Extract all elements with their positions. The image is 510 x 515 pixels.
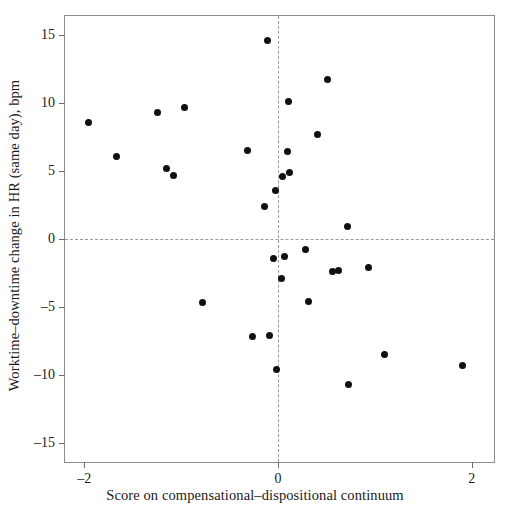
y-axis-tick-label: –10 [34,367,55,383]
data-point [279,173,286,180]
data-point [302,246,309,253]
data-point [285,98,292,105]
data-point [273,366,280,373]
x-axis-tick [84,462,85,468]
data-point [249,333,256,340]
y-axis-tick [59,103,65,104]
data-point [345,381,352,388]
y-axis-tick [59,171,65,172]
y-axis-title-text: Worktime–downtime change in HR (same day… [7,79,24,391]
data-point [281,253,288,260]
data-point [163,165,170,172]
data-point [261,203,268,210]
data-point [324,76,331,83]
data-point [85,119,92,126]
data-point [305,298,312,305]
x-axis-tick-label: 0 [275,471,282,487]
data-point [365,264,372,271]
data-point [154,109,161,116]
y-axis-tick [59,443,65,444]
plot-area: 151050–5–10–15–202 [64,15,495,463]
x-axis-tick [278,462,279,468]
data-point [314,131,321,138]
data-point [459,362,466,369]
data-point [272,187,279,194]
y-axis-tick [59,307,65,308]
data-point [381,351,388,358]
data-point [244,147,251,154]
scatter-plot-figure: 151050–5–10–15–202 Worktime–downtime cha… [0,0,510,515]
data-point [284,148,291,155]
y-axis-tick-label: –5 [41,299,55,315]
y-axis-tick-label: 0 [48,231,55,247]
x-axis-tick-label: –2 [77,471,91,487]
data-point [264,37,271,44]
data-point [181,104,188,111]
x-axis-title: Score on compensational–dispositional co… [0,487,510,504]
x-axis-tick-label: 2 [468,471,475,487]
y-axis-tick-label: –15 [34,435,55,451]
y-axis-tick [59,375,65,376]
y-axis-tick-label: 5 [48,163,55,179]
y-axis-tick [59,35,65,36]
data-point [113,153,120,160]
horizontal-reference-line [65,239,494,240]
data-point [335,267,342,274]
y-axis-tick-label: 15 [41,27,55,43]
y-axis-title: Worktime–downtime change in HR (same day… [4,0,26,470]
x-axis-tick [472,462,473,468]
y-axis-tick [59,239,65,240]
data-point [270,255,277,262]
data-point [199,299,206,306]
data-point [286,169,293,176]
data-point [170,172,177,179]
data-point [266,332,273,339]
data-point [344,223,351,230]
data-point [278,275,285,282]
y-axis-tick-label: 10 [41,95,55,111]
